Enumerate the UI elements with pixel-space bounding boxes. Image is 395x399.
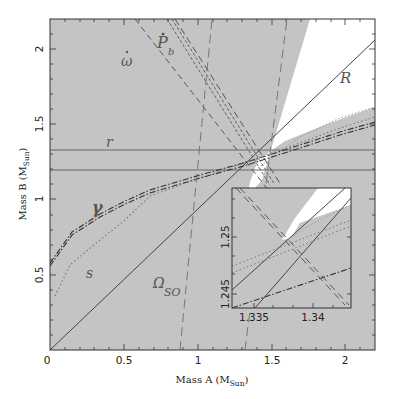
x-tick-label-0: 0 — [44, 354, 51, 366]
inset: 1.335 1.34 1.245 1.25 — [219, 188, 351, 323]
label-gamma: γ — [92, 198, 104, 217]
inset-x-tick-label-1: 1.34 — [301, 311, 325, 323]
label-Pb-dot-sub: b — [168, 46, 174, 57]
x-axis-label: Mass A (MSun) — [176, 374, 249, 388]
mass-mass-diagram: R r ω P b γ s Ω SO — [0, 0, 395, 399]
y-tick-label-2: 1.5 — [33, 116, 45, 133]
omega-dot-marker — [126, 51, 128, 53]
label-Pb-dot: P — [156, 33, 168, 52]
Pb-dot-marker — [162, 33, 165, 36]
x-tick-label-1: 0.5 — [116, 354, 133, 366]
label-R: R — [339, 69, 351, 87]
y-tick-label-1: 1 — [33, 196, 45, 203]
label-omega-so-sub: SO — [164, 286, 181, 299]
y-tick-label-3: 2 — [33, 46, 45, 53]
label-s: s — [86, 265, 93, 281]
x-tick-label-4: 2 — [342, 354, 349, 366]
inset-y-tick-label-0: 1.245 — [219, 279, 231, 309]
inset-x-tick-label-0: 1.335 — [239, 311, 269, 323]
label-omega-dot: ω — [121, 53, 133, 69]
y-tick-label-0: 0.5 — [33, 267, 45, 284]
y-axis-label: Mass B (MSun) — [17, 147, 31, 220]
x-tick-label-3: 1.5 — [264, 354, 281, 366]
x-tick-label-2: 1 — [195, 354, 202, 366]
inset-y-tick-label-1: 1.25 — [219, 225, 231, 248]
